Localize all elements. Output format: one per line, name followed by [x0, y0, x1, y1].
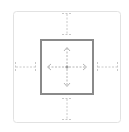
box-model-diagram [0, 0, 129, 132]
box-model-widget [0, 0, 129, 132]
